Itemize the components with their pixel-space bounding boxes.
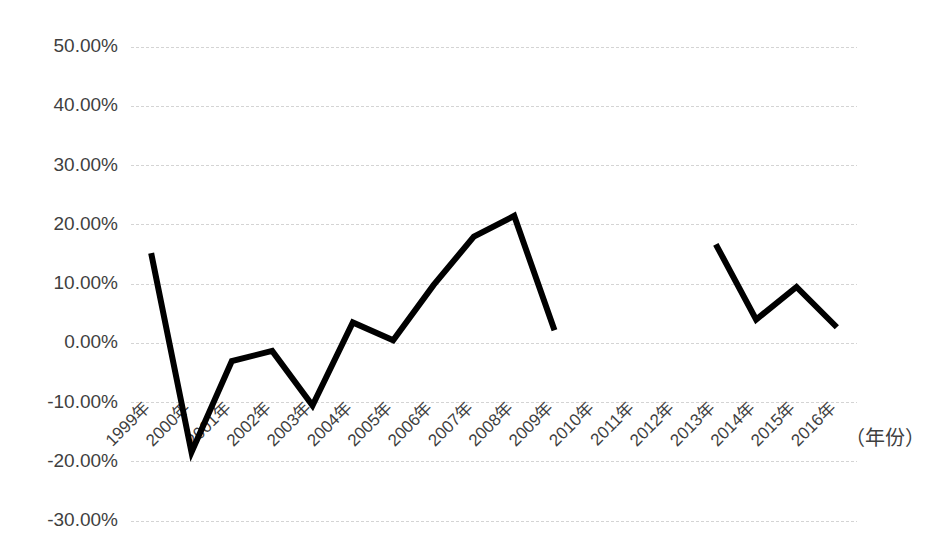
y-axis-tick-labels: 50.00%40.00%30.00%20.00%10.00%0.00%-10.0…	[47, 35, 118, 530]
y-tick-label: 50.00%	[54, 35, 119, 56]
y-tick-label: -20.00%	[47, 450, 118, 471]
y-tick-label: 10.00%	[54, 272, 119, 293]
x-axis-title: （年份）	[845, 427, 925, 449]
y-tick-label: 40.00%	[54, 94, 119, 115]
y-tick-label: -30.00%	[47, 509, 118, 530]
chart-container: 50.00%40.00%30.00%20.00%10.00%0.00%-10.0…	[0, 0, 947, 560]
y-tick-label: 30.00%	[54, 154, 119, 175]
y-tick-label: 20.00%	[54, 213, 119, 234]
line-chart: 50.00%40.00%30.00%20.00%10.00%0.00%-10.0…	[0, 0, 947, 560]
y-tick-label: 0.00%	[64, 331, 118, 352]
y-tick-label: -10.00%	[47, 391, 118, 412]
chart-background	[0, 0, 947, 560]
